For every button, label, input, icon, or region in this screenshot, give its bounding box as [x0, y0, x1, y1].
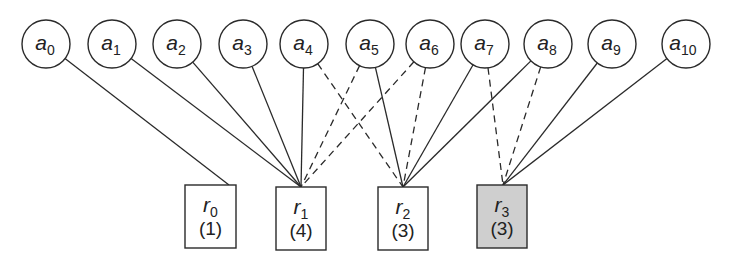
edge-a2-r1-solid [193, 62, 301, 187]
agent-node-a3: a3 [219, 20, 267, 68]
resource-count: (1) [199, 218, 222, 239]
agent-node-a7: a7 [461, 20, 509, 68]
resource-box-r0: r0(1) [185, 185, 236, 248]
agent-node-a9: a9 [588, 20, 636, 68]
agent-node-a4: a4 [280, 20, 328, 68]
resource-count: (4) [289, 220, 312, 241]
resource-boxes-layer: r0(1)r1(4)r2(3)r3(3) [185, 185, 527, 250]
bipartite-diagram: r0(1)r1(4)r2(3)r3(3) a0a1a2a3a4a5a6a7a8a… [0, 0, 732, 271]
edge-a6-r2-dashed [403, 68, 426, 187]
agent-node-a6: a6 [406, 20, 454, 68]
agent-node-a10: a10 [662, 20, 710, 68]
agent-node-a0: a0 [22, 20, 70, 68]
agent-nodes-layer: a0a1a2a3a4a5a6a7a8a9a10 [22, 20, 710, 68]
edge-a10-r3-solid [503, 59, 667, 185]
agent-node-a8: a8 [524, 20, 572, 68]
edge-a6-r1-dashed [301, 62, 414, 187]
agent-node-a1: a1 [88, 20, 136, 68]
resource-count: (3) [391, 220, 414, 241]
edge-a0-r0-solid [65, 59, 229, 185]
resource-count: (3) [490, 218, 513, 239]
agent-node-a2: a2 [153, 20, 201, 68]
edge-a8-r3-dashed [503, 67, 541, 185]
edge-a7-r2-solid [403, 65, 473, 187]
resource-box-r1: r1(4) [276, 187, 326, 250]
edge-a5-r1-dashed [301, 66, 360, 187]
resource-box-r3: r3(3) [477, 185, 527, 248]
edge-a8-r2-solid [403, 61, 531, 187]
edge-a4-r1-solid [301, 68, 304, 187]
resource-box-r2: r2(3) [378, 187, 428, 250]
edge-a7-r3-dashed [488, 68, 503, 185]
edges-layer [65, 59, 667, 188]
agent-node-a5: a5 [346, 20, 394, 68]
edge-a5-r2-solid [375, 67, 403, 187]
